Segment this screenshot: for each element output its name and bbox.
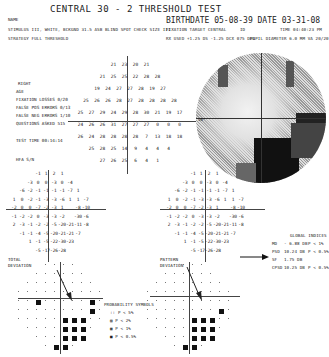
prob-symbol-normal: [228, 300, 229, 301]
prob-symbol-normal: [165, 309, 166, 310]
global-index-row: PSD10.24 DBP < 0.5%: [272, 249, 329, 254]
prob-symbol-normal: [183, 291, 184, 292]
probability-symbol-icon: ■: [110, 334, 113, 339]
false-pos-errors: FALSE POS ERRORS 0/13: [16, 105, 70, 110]
prob-symbol-normal: [36, 291, 37, 292]
total-deviation-label: TOTAL DEVIATION: [8, 257, 31, 269]
prob-symbol-normal: [183, 309, 184, 310]
prob-symbol-normal: [174, 291, 175, 292]
prob-symbol-normal: [174, 327, 175, 328]
prob-symbol-p05: [192, 327, 197, 332]
grid-value: -7: [226, 231, 240, 236]
prob-symbol-normal: [45, 273, 46, 274]
prob-symbol-normal: [228, 318, 229, 319]
prob-symbol-normal: [90, 327, 91, 328]
grid-value: -4: [218, 180, 232, 185]
index-value: 10.24 DB: [284, 249, 308, 254]
global-index-row: MD- 6.88 DBP < 1%: [272, 241, 329, 246]
prob-symbol-normal: [183, 318, 184, 319]
probability-label: P < 5%: [118, 310, 134, 315]
probability-legend-item: :: P < 5%: [110, 310, 154, 315]
probability-legend-item: ■ P < 0.5%: [110, 334, 154, 339]
prob-symbol-normal: [36, 309, 37, 310]
prob-symbol-normal: [219, 327, 220, 328]
prob-symbol-normal: [72, 309, 73, 310]
grid-value: 1: [210, 205, 224, 210]
stimulus-info: STIMULUS III, WHITE, BCKGND 31.5 ASB BLI…: [8, 27, 171, 32]
patient-id: ID: [240, 27, 245, 32]
grayscale-30-label: 30°: [198, 117, 206, 122]
prob-symbol-normal: [27, 291, 28, 292]
grid-value: 1: [55, 205, 69, 210]
grid-value: 0: [173, 122, 187, 127]
prob-symbol-normal: [165, 327, 166, 328]
prob-symbol-p05: [201, 327, 206, 332]
prob-symbol-p05: [81, 336, 86, 341]
prob-symbol-normal: [54, 318, 55, 319]
probability-symbol-icon: ▨: [110, 318, 113, 323]
test-time-of-day: TIME 04:40:23 PM: [280, 27, 322, 32]
prob-symbol-normal: [72, 264, 73, 265]
prob-symbol-p05: [192, 345, 197, 350]
prob-symbol-normal: [36, 273, 37, 274]
prob-symbol-normal: [210, 309, 211, 310]
grid-value: -4: [63, 180, 77, 185]
prob-symbol-p05: [192, 318, 197, 323]
prob-symbol-normal: [45, 264, 46, 265]
prob-symbol-normal: [147, 291, 148, 292]
prob-symbol-p05: [36, 300, 41, 305]
prob-symbol-normal: [183, 273, 184, 274]
test-title: CENTRAL 30 - 2 THRESHOLD TEST: [50, 4, 222, 14]
prob-symbol-p05: [72, 318, 77, 323]
grid-value: 28: [167, 98, 181, 103]
prob-symbol-normal: [27, 327, 28, 328]
grid-value: -10: [79, 205, 93, 210]
prob-symbol-normal: [219, 318, 220, 319]
prob-symbol-p05: [210, 336, 215, 341]
prob-symbol-p05: [54, 345, 59, 350]
hfa-serial: HFA S/N: [16, 157, 34, 162]
prob-symbol-normal: [165, 282, 166, 283]
prob-symbol-normal: [219, 300, 220, 301]
prob-symbol-normal: [45, 282, 46, 283]
prob-symbol-normal: [54, 264, 55, 265]
index-key: SF: [272, 257, 284, 262]
prob-symbol-p05: [81, 327, 86, 332]
prob-symbol-normal: [174, 309, 175, 310]
birthdate-line: BIRTHDATE 05-08-39 DATE 03-31-08: [166, 16, 320, 25]
test-duration: TEST TIME 00:14:14: [16, 138, 63, 143]
index-key: PSD: [272, 249, 284, 254]
prob-symbol-normal: [54, 327, 55, 328]
prob-symbol-normal: [165, 291, 166, 292]
grid-value: -23: [63, 239, 77, 244]
prob-symbol-normal: [156, 318, 157, 319]
prob-symbol-normal: [99, 318, 100, 319]
prob-symbol-normal: [99, 300, 100, 301]
index-key: MD: [272, 241, 284, 246]
grid-value: 1: [210, 171, 224, 176]
prob-symbol-p05: [201, 336, 206, 341]
prob-symbol-p05: [72, 336, 77, 341]
prob-symbol-normal: [99, 309, 100, 310]
grid-value: -7: [234, 197, 248, 202]
grid-value: 1: [71, 188, 85, 193]
prob-symbol-normal: [156, 291, 157, 292]
grid-value: -6: [234, 214, 248, 219]
prob-symbol-normal: [156, 300, 157, 301]
prob-symbol-normal: [27, 300, 28, 301]
prob-symbol-normal: [201, 345, 202, 346]
prob-symbol-normal: [174, 282, 175, 283]
strategy-info: STRATEGY FULL THRESHOLD: [8, 36, 68, 41]
name-label: NAME: [8, 17, 18, 22]
prob-symbol-p05: [210, 327, 215, 332]
prob-symbol-normal: [192, 309, 193, 310]
prob-symbol-normal: [156, 327, 157, 328]
global-index-row: SF1.75 DB: [272, 257, 329, 262]
prob-symbol-normal: [174, 345, 175, 346]
grid-value: -8: [79, 222, 93, 227]
prob-symbol-normal: [183, 282, 184, 283]
prob-symbol-normal: [45, 291, 46, 292]
grid-value: 27: [156, 86, 170, 91]
prob-symbol-normal: [36, 336, 37, 337]
prob-symbol-normal: [201, 309, 202, 310]
